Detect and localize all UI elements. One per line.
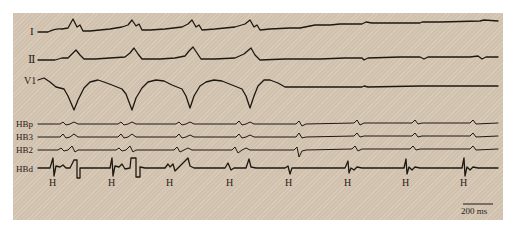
trace-HB2 (38, 146, 498, 157)
his-marker: H (49, 177, 56, 188)
scale-bar-label: 200 ms (461, 206, 488, 216)
trace-lead-II (38, 47, 498, 60)
trace-lead-V1 (38, 78, 498, 110)
his-marker: H (402, 177, 409, 188)
his-marker: H (226, 177, 233, 188)
lead-label-HBd: HBd (16, 164, 34, 174)
trace-HBp (38, 120, 498, 126)
lead-label-HBp: HBp (16, 119, 34, 129)
his-marker: H (166, 177, 173, 188)
lead-label-I: I (30, 25, 34, 37)
lead-label-V1: V1 (24, 75, 36, 86)
his-marker: H (285, 177, 292, 188)
lead-label-II: Ⅱ (28, 53, 35, 65)
trace-HB3 (38, 133, 498, 138)
his-marker: H (344, 177, 351, 188)
trace-HBd (38, 158, 498, 178)
trace-lead-I (38, 19, 498, 32)
lead-label-HB2: HB2 (16, 145, 33, 155)
ecg-figure: I Ⅱ V1 HBp HB3 HB2 HBd H H H H H H H H 2… (0, 0, 512, 228)
lead-label-HB3: HB3 (16, 132, 34, 142)
his-marker: H (108, 177, 115, 188)
his-marker: H (460, 177, 467, 188)
